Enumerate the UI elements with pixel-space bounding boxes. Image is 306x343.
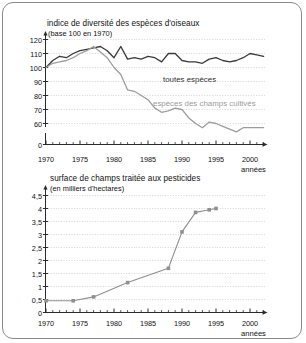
figure-frame: indice de diversité des espèces d'oiseau… xyxy=(2,2,302,339)
chart-plot-pesticides xyxy=(3,3,306,343)
